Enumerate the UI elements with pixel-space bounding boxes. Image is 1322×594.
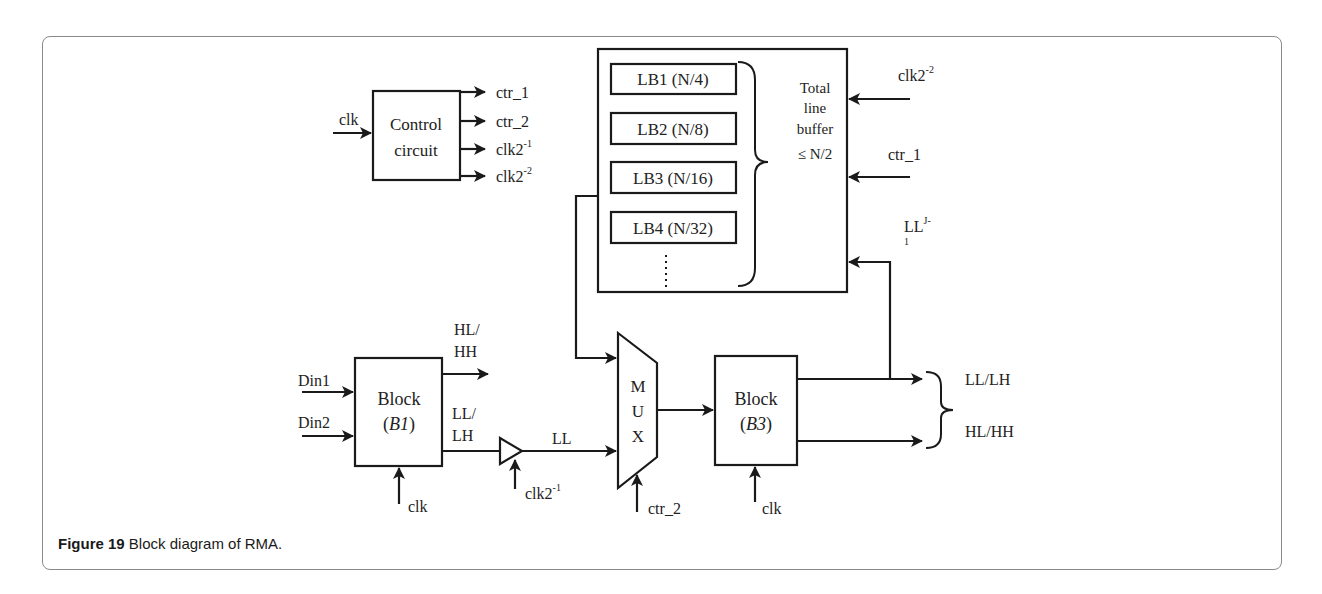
- total-label-2: line: [804, 100, 827, 116]
- b3-clk-label: clk: [762, 500, 782, 517]
- mux-letter-u: U: [632, 402, 644, 421]
- b3-label: Block: [735, 389, 778, 409]
- lb1-label: LB1 (N/4): [637, 70, 708, 89]
- control-out-ctr2: ctr_2: [496, 113, 529, 130]
- control-circuit-block: [333, 91, 485, 180]
- figure-caption-label: Figure 19: [58, 535, 125, 552]
- delay-clk-label: clk2-1: [525, 482, 561, 502]
- lb2-label: LB2 (N/8): [637, 120, 708, 139]
- control-out-clk2-2: clk2-2: [496, 165, 532, 185]
- mux-block: [618, 333, 713, 512]
- total-label-1: Total: [800, 80, 831, 96]
- block-b3: [715, 262, 953, 502]
- b1-ll-label-1: LL/: [452, 405, 477, 422]
- lb-in-clk2-2: clk2-2: [898, 64, 934, 84]
- control-out-ctr1: ctr_1: [496, 84, 529, 101]
- b1-clk-label: clk: [408, 498, 428, 515]
- lb-in-llj1: LLJ-: [904, 215, 931, 235]
- block-diagram: clk Control circuit ctr_1 ctr_2 clk2-1 c…: [0, 0, 1322, 594]
- delay-ll-label: LL: [552, 430, 572, 447]
- b3-out-ll-lh: LL/LH: [965, 371, 1011, 388]
- control-clk-label: clk: [339, 111, 359, 128]
- b3-out-hl-hh: HL/HH: [965, 423, 1014, 440]
- din1-label: Din1: [298, 372, 330, 389]
- lb-in-ctr1: ctr_1: [888, 146, 921, 163]
- b1-label: Block: [378, 389, 421, 409]
- lb3-label: LB3 (N/16): [633, 169, 713, 188]
- control-out-clk2-1: clk2-1: [496, 138, 532, 158]
- lb4-label: LB4 (N/32): [633, 219, 713, 238]
- lb-in-llj1-sub: 1: [904, 236, 909, 247]
- control-label-1: Control: [390, 115, 442, 134]
- b1-name: (B1): [383, 414, 415, 435]
- feedback-wire: [849, 262, 890, 379]
- figure-caption: Figure 19 Block diagram of RMA.: [58, 535, 282, 552]
- control-label-2: circuit: [394, 141, 438, 160]
- b1-hl-label-1: HL/: [454, 321, 480, 338]
- figure-caption-text: Block diagram of RMA.: [125, 535, 283, 552]
- mux-letter-x: X: [632, 427, 644, 446]
- total-label-4: ≤ N/2: [798, 146, 832, 162]
- mux-ctr2-label: ctr_2: [648, 500, 681, 517]
- b1-hl-label-2: HH: [454, 343, 478, 360]
- b3-name: (B3): [740, 414, 772, 435]
- mux-letter-m: M: [630, 377, 645, 396]
- din2-label: Din2: [298, 414, 330, 431]
- total-label-3: buffer: [797, 121, 833, 137]
- b1-ll-label-2: LH: [452, 427, 474, 444]
- output-brace-icon: [926, 372, 953, 448]
